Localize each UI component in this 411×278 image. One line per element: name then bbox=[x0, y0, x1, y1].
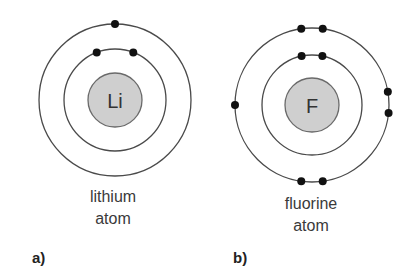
electron-dot bbox=[93, 48, 101, 56]
electron-dot bbox=[297, 25, 305, 33]
electron-dot bbox=[129, 48, 137, 56]
fluorine-atom: F bbox=[231, 25, 393, 186]
electron-dot bbox=[318, 52, 326, 60]
electron-dot bbox=[231, 101, 239, 109]
lithium-caption: lithium atom bbox=[63, 186, 163, 230]
panel-label-a: a) bbox=[32, 249, 45, 266]
fluorine-caption: fluorine atom bbox=[261, 193, 361, 237]
electron-dot bbox=[384, 88, 392, 96]
fluorine-symbol: F bbox=[306, 95, 318, 117]
electron-dot bbox=[385, 109, 393, 117]
electron-dot bbox=[319, 177, 327, 185]
panel-label-b: b) bbox=[233, 249, 247, 266]
lithium-caption-line2: atom bbox=[63, 208, 163, 230]
lithium-caption-line1: lithium bbox=[63, 186, 163, 208]
lithium-atom: Li bbox=[39, 20, 191, 176]
electron-dot bbox=[298, 52, 306, 60]
electron-dot bbox=[297, 177, 305, 185]
electron-dot bbox=[111, 20, 119, 28]
fluorine-caption-line2: atom bbox=[261, 215, 361, 237]
lithium-symbol: Li bbox=[107, 90, 123, 112]
electron-dot bbox=[319, 25, 327, 33]
fluorine-caption-line1: fluorine bbox=[261, 193, 361, 215]
